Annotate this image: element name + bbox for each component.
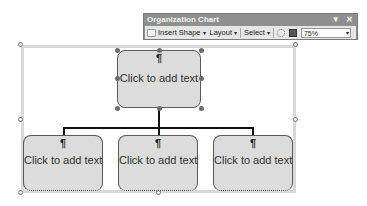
- toolbar-title-bar[interactable]: Organization Chart ▼ ✕: [144, 14, 357, 25]
- fit-text-icon[interactable]: [289, 29, 297, 37]
- zoom-value: 75%: [304, 30, 318, 37]
- connector-vertical-main: [158, 108, 160, 128]
- box-placeholder-text[interactable]: Click to add text: [24, 154, 102, 167]
- selection-handle-tm[interactable]: [157, 48, 162, 53]
- selection-handle-bl[interactable]: [115, 106, 120, 111]
- chevron-down-icon[interactable]: ▾: [203, 29, 206, 36]
- canvas-handle-bl[interactable]: [18, 190, 23, 195]
- insert-shape-button[interactable]: Insert Shape ▾: [145, 26, 208, 39]
- box-placeholder-text[interactable]: Click to add text: [118, 72, 200, 85]
- paragraph-mark: ¶: [119, 138, 197, 149]
- toolbar-buttons-row: Insert Shape ▾ Layout ▾ Select ▾ 75% ▾: [145, 26, 356, 39]
- selection-handle-mr[interactable]: [199, 76, 204, 81]
- selection-handle-br[interactable]: [199, 106, 204, 111]
- canvas-handle-tr[interactable]: [293, 42, 298, 47]
- selection-handle-bm[interactable]: [157, 106, 162, 111]
- org-box-subordinate-1[interactable]: ¶ Click to add text: [23, 135, 103, 191]
- autoformat-icon[interactable]: [277, 29, 285, 37]
- org-chart-toolbar[interactable]: Organization Chart ▼ ✕ Insert Shape ▾ La…: [143, 13, 358, 40]
- canvas-handle-mr[interactable]: [293, 117, 298, 122]
- canvas-handle-tl[interactable]: [18, 42, 23, 47]
- toolbar-title: Organization Chart: [147, 15, 219, 24]
- toolbar-separator: [273, 28, 274, 38]
- selection-handle-ml[interactable]: [115, 76, 120, 81]
- connector-drop-left: [63, 127, 65, 135]
- chevron-down-icon: ▾: [234, 29, 237, 36]
- layout-label: Layout: [210, 28, 233, 37]
- selection-handle-tl[interactable]: [115, 48, 120, 53]
- box-placeholder-text[interactable]: Click to add text: [119, 154, 197, 167]
- org-box-subordinate-2[interactable]: ¶ Click to add text: [118, 135, 198, 191]
- layout-button[interactable]: Layout ▾: [208, 26, 240, 39]
- box-placeholder-text[interactable]: Click to add text: [214, 154, 292, 167]
- org-box-subordinate-3[interactable]: ¶ Click to add text: [213, 135, 293, 191]
- toolbar-close-icon[interactable]: ✕: [346, 15, 353, 24]
- paragraph-mark: ¶: [214, 138, 292, 149]
- selection-handle-tr[interactable]: [199, 48, 204, 53]
- canvas-handle-ml[interactable]: [18, 117, 23, 122]
- select-label: Select: [244, 28, 265, 37]
- select-button[interactable]: Select ▾: [242, 26, 272, 39]
- dropdown-icon[interactable]: ▾: [346, 29, 349, 38]
- chevron-down-icon: ▾: [267, 29, 270, 36]
- paragraph-mark: ¶: [118, 53, 200, 64]
- zoom-select[interactable]: 75% ▾: [301, 28, 351, 38]
- paragraph-mark: ¶: [24, 138, 102, 149]
- connector-drop-right: [252, 127, 254, 135]
- insert-shape-label: Insert Shape: [158, 28, 201, 37]
- toolbar-options-icon[interactable]: ▼: [332, 15, 340, 24]
- connector-drop-middle: [158, 127, 160, 135]
- insert-shape-icon: [147, 29, 156, 37]
- toolbar-separator: [240, 28, 241, 38]
- org-box-manager[interactable]: ¶ Click to add text: [117, 50, 201, 108]
